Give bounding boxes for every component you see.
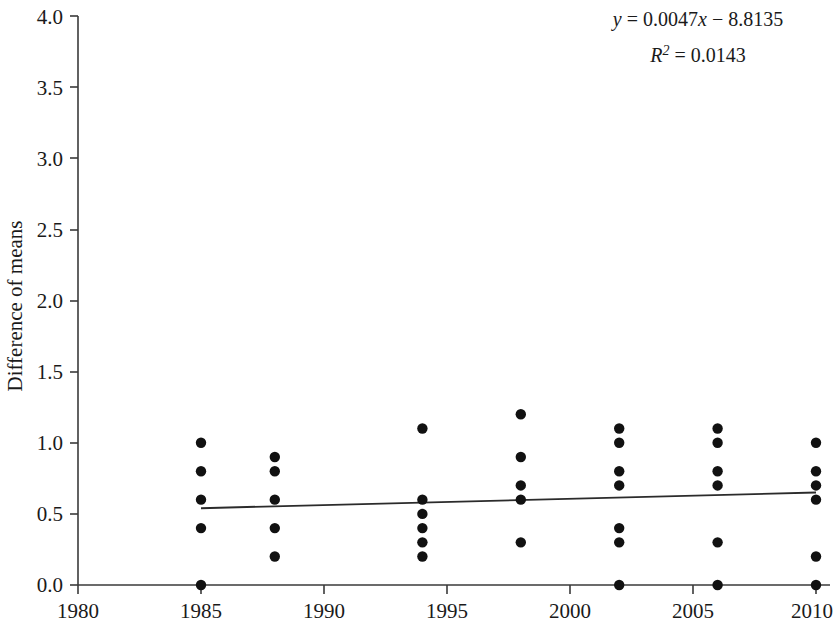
data-point <box>811 551 821 561</box>
data-point <box>196 466 206 476</box>
data-point <box>516 409 526 419</box>
data-point <box>614 537 624 547</box>
data-point <box>712 537 722 547</box>
y-tick-label-3.5: 3.5 <box>37 76 63 100</box>
y-tick-label-2.0: 2.0 <box>37 289 63 313</box>
x-tick-label-1995: 1995 <box>426 599 468 623</box>
data-point <box>417 523 427 533</box>
chart-canvas: Difference of means 4.0 3.5 3.0 2.5 2.0 … <box>0 0 838 631</box>
y-axis-title: Difference of means <box>3 220 27 391</box>
data-point <box>516 480 526 490</box>
data-point <box>811 494 821 504</box>
x-tick-label-1985: 1985 <box>180 599 222 623</box>
y-tick-label-0.5: 0.5 <box>37 502 63 526</box>
data-point <box>270 466 280 476</box>
x-tick-label-1980: 1980 <box>57 599 99 623</box>
x-tick-label-2010: 2010 <box>791 599 833 623</box>
data-point <box>516 537 526 547</box>
data-point <box>614 423 624 433</box>
data-point <box>270 551 280 561</box>
equation-y-var: y <box>611 8 622 31</box>
data-point <box>614 466 624 476</box>
equation-body: = 0.0047 <box>622 8 698 30</box>
data-point <box>516 494 526 504</box>
y-tick-label-0.0: 0.0 <box>37 573 63 597</box>
y-axis-ticks <box>70 16 78 585</box>
y-axis-tick-labels: 4.0 3.5 3.0 2.5 2.0 1.5 1.0 0.5 0.0 <box>37 5 63 597</box>
data-point <box>196 494 206 504</box>
data-point <box>417 423 427 433</box>
data-point <box>417 537 427 547</box>
data-point <box>811 438 821 448</box>
regression-equation-label: y = 0.0047x − 8.8135 <box>611 8 783 31</box>
data-point <box>417 551 427 561</box>
data-point <box>196 523 206 533</box>
y-tick-label-3.0: 3.0 <box>37 147 63 171</box>
data-point <box>811 466 821 476</box>
x-tick-label-1990: 1990 <box>303 599 345 623</box>
data-point <box>712 466 722 476</box>
data-point <box>811 580 821 590</box>
data-point <box>270 494 280 504</box>
scatter-chart-figure: Difference of means 4.0 3.5 3.0 2.5 2.0 … <box>0 0 838 631</box>
trend-line <box>201 493 816 509</box>
y-tick-label-1.5: 1.5 <box>37 360 63 384</box>
y-tick-label-4.0: 4.0 <box>37 5 63 29</box>
data-point <box>614 580 624 590</box>
equation-tail: − 8.8135 <box>707 8 783 30</box>
data-point <box>712 423 722 433</box>
r-squared-label: R2 = 0.0143 <box>649 43 746 66</box>
data-point <box>811 480 821 490</box>
data-point <box>270 452 280 462</box>
equation-x-var: x <box>697 8 707 30</box>
y-tick-label-1.0: 1.0 <box>37 431 63 455</box>
r-squared-symbol: R <box>649 44 662 66</box>
x-tick-label-2005: 2005 <box>672 599 714 623</box>
x-axis-tick-labels: 1980 1985 1990 1995 2000 2005 2010 <box>57 599 833 623</box>
data-point <box>270 523 280 533</box>
y-tick-label-2.5: 2.5 <box>37 218 63 242</box>
data-point <box>196 438 206 448</box>
data-point <box>614 438 624 448</box>
x-axis-ticks <box>78 585 816 594</box>
data-point <box>614 480 624 490</box>
data-point <box>712 480 722 490</box>
data-point <box>712 438 722 448</box>
r-squared-value: = 0.0143 <box>669 44 745 66</box>
r-squared-exponent: 2 <box>662 43 669 58</box>
data-point <box>712 580 722 590</box>
x-tick-label-2000: 2000 <box>549 599 591 623</box>
data-point <box>614 523 624 533</box>
data-point <box>417 509 427 519</box>
data-point <box>516 452 526 462</box>
data-point <box>196 580 206 590</box>
data-point <box>417 494 427 504</box>
